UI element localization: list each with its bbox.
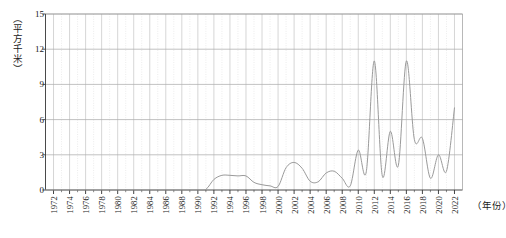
x-tick-label: 1994 — [225, 196, 235, 214]
x-tick-label: 2006 — [322, 196, 332, 214]
x-tick-label: 2000 — [274, 196, 284, 214]
x-axis-title: （年份） — [472, 198, 506, 212]
chart-container: （平方千米） 03691215 197219741976197819801982… — [0, 0, 506, 238]
x-tick-label: 2020 — [434, 196, 444, 214]
x-tick-label: 1986 — [161, 196, 171, 214]
x-tick-label: 1992 — [209, 196, 219, 214]
x-tick-label: 1988 — [177, 196, 187, 214]
chart-plot-svg — [0, 0, 506, 238]
clipped-caption-text — [150, 231, 380, 238]
x-tick-label: 1980 — [113, 196, 123, 214]
x-tick-label: 1990 — [193, 196, 203, 214]
x-tick-label: 2014 — [386, 196, 396, 214]
x-tick-label: 1974 — [65, 196, 75, 214]
x-tick-label: 2012 — [370, 196, 380, 214]
x-tick-label: 2010 — [354, 196, 364, 214]
x-tick-label: 1978 — [97, 196, 107, 214]
x-tick-label: 1976 — [81, 196, 91, 214]
x-tick-label: 2004 — [306, 196, 316, 214]
x-tick-label: 1998 — [258, 196, 268, 214]
x-tick-label: 2018 — [418, 196, 428, 214]
x-tick-label: 2022 — [450, 196, 460, 214]
x-tick-label: 2016 — [402, 196, 412, 214]
x-tick-label: 2008 — [338, 196, 348, 214]
x-tick-label: 1972 — [49, 196, 59, 214]
x-tick-label: 1982 — [129, 196, 139, 214]
x-tick-label: 1984 — [145, 196, 155, 214]
x-tick-label: 1996 — [241, 196, 251, 214]
x-tick-label: 2002 — [290, 196, 300, 214]
